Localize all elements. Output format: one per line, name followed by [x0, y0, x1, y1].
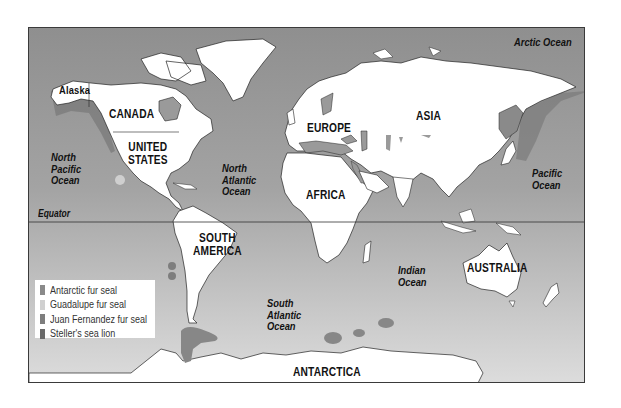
label-africa: AFRICA — [306, 189, 346, 202]
label-north-pacific-line1: North — [51, 152, 81, 164]
label-south-atlantic-line1: South — [267, 298, 301, 310]
antarctic-fur-seal-island-2 — [353, 329, 365, 337]
label-arctic-ocean: Arctic Ocean — [514, 37, 572, 49]
legend-label-stellers-sea-lion: Steller's sea lion — [50, 328, 115, 339]
legend-label-guadalupe-fur-seal: Guadalupe fur seal — [50, 299, 126, 310]
label-indian-ocean: Indian Ocean — [398, 265, 427, 288]
map-legend: Antarctic fur seal Guadalupe fur seal Ju… — [35, 280, 155, 338]
label-europe: EUROPE — [307, 122, 351, 135]
label-antarctica: ANTARCTICA — [293, 366, 361, 379]
label-alaska: Alaska — [59, 85, 90, 97]
label-pacific-ocean: Pacific Ocean — [532, 168, 562, 191]
antarctica — [29, 347, 483, 383]
madagascar — [363, 241, 371, 263]
label-equator: Equator — [38, 209, 70, 220]
new-zealand — [543, 283, 559, 307]
label-north-atlantic-line3: Ocean — [222, 186, 256, 198]
legend-swatch-juan-fernandez-fur-seal — [40, 314, 45, 324]
legend-swatch-stellers-sea-lion — [40, 329, 45, 339]
label-north-pacific-ocean: North Pacific Ocean — [51, 152, 81, 187]
caribbean-islands — [173, 183, 197, 189]
label-south-america-line1: SOUTH — [193, 232, 242, 245]
legend-swatch-antarctic-fur-seal — [40, 285, 45, 295]
legend-label-juan-fernandez-fur-seal: Juan Fernandez fur seal — [50, 314, 147, 325]
juan-fernandez-fur-seal-range-2 — [168, 272, 176, 280]
legend-item-guadalupe-fur-seal: Guadalupe fur seal — [40, 298, 155, 313]
label-pacific-line2: Ocean — [532, 180, 562, 192]
greenland — [196, 39, 276, 101]
legend-label-antarctic-fur-seal: Antarctic fur seal — [50, 285, 117, 296]
india — [393, 177, 413, 207]
legend-item-stellers-sea-lion: Steller's sea lion — [40, 327, 155, 342]
label-south-atlantic-ocean: South Atlantic Ocean — [267, 298, 301, 333]
legend-swatch-guadalupe-fur-seal — [40, 300, 45, 310]
label-asia: ASIA — [416, 110, 441, 123]
south-america — [173, 206, 237, 323]
legend-item-antarctic-fur-seal: Antarctic fur seal — [40, 283, 155, 298]
novaya-zemlya — [373, 47, 441, 59]
label-united-states-line2: STATES — [128, 154, 168, 167]
label-united-states-line1: UNITED — [128, 141, 168, 154]
arctic-islands — [141, 53, 206, 85]
label-north-pacific-line3: Ocean — [51, 175, 81, 187]
juan-fernandez-fur-seal-range-1 — [168, 262, 176, 270]
label-indian-line2: Ocean — [398, 277, 427, 289]
label-united-states: UNITED STATES — [128, 141, 168, 166]
label-south-atlantic-line3: Ocean — [267, 321, 301, 333]
label-north-atlantic-ocean: North Atlantic Ocean — [222, 163, 256, 198]
label-north-atlantic-line1: North — [222, 163, 256, 175]
guadalupe-fur-seal-range — [115, 175, 125, 185]
label-pacific-line1: Pacific — [532, 168, 562, 180]
label-canada: CANADA — [109, 108, 154, 121]
label-south-america-line2: AMERICA — [193, 245, 242, 258]
antarctic-fur-seal-island-1 — [324, 332, 342, 344]
label-south-america: SOUTH AMERICA — [193, 232, 242, 257]
label-australia: AUSTRALIA — [467, 262, 527, 275]
legend-item-juan-fernandez-fur-seal: Juan Fernandez fur seal — [40, 312, 155, 327]
label-indian-line1: Indian — [398, 265, 427, 277]
antarctic-fur-seal-island-3 — [378, 318, 394, 328]
caspian-sea — [361, 131, 367, 151]
tasmania — [509, 301, 515, 307]
